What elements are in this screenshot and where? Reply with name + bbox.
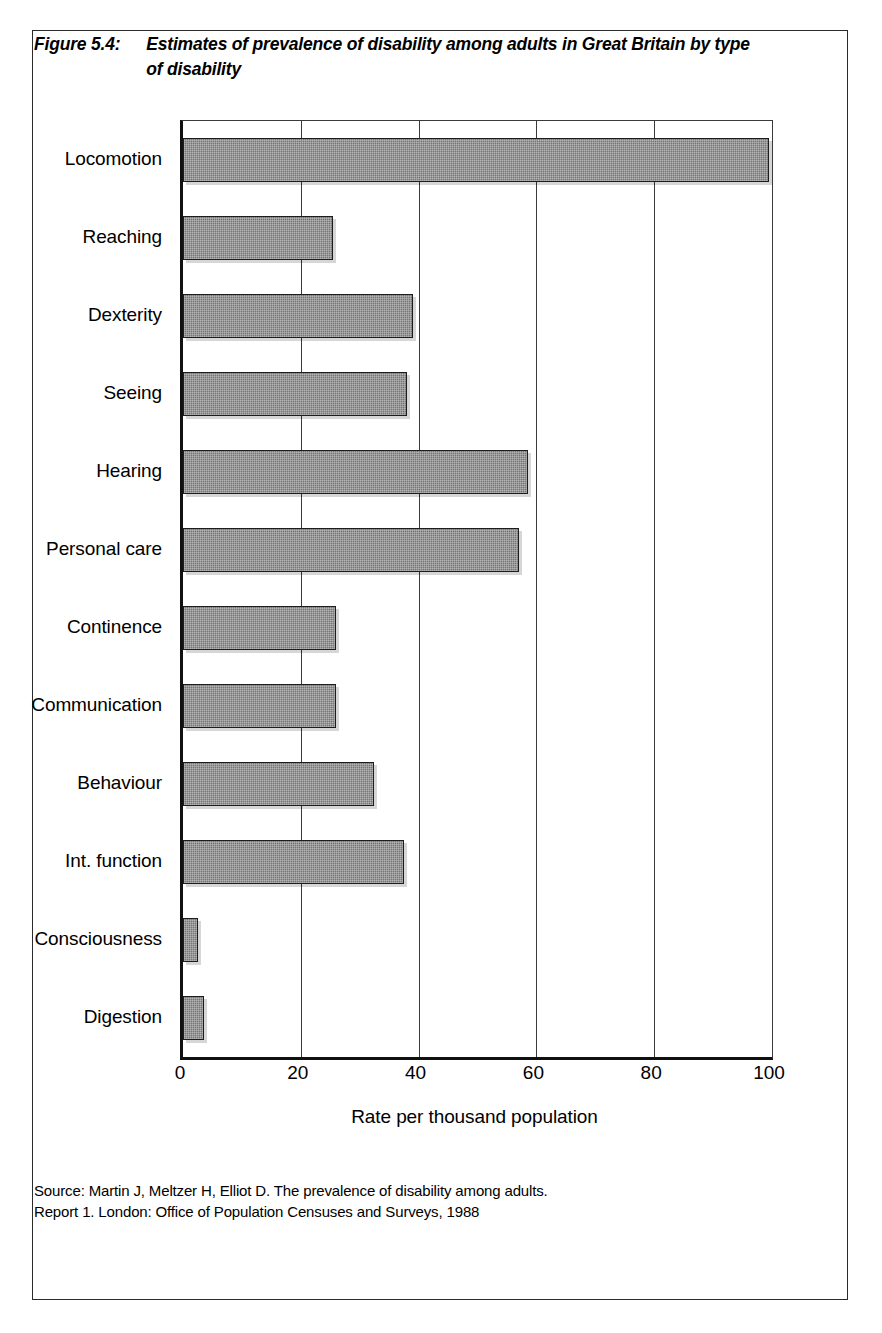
bar[interactable]	[183, 450, 528, 494]
bar[interactable]	[183, 684, 336, 728]
y-axis-category-labels: LocomotionReachingDexteritySeeingHearing…	[0, 120, 172, 1056]
y-axis-label: Continence	[67, 588, 162, 666]
bar[interactable]	[183, 606, 336, 650]
bar-chart: LocomotionReachingDexteritySeeingHearing…	[0, 0, 816, 1270]
y-axis-label: Dexterity	[88, 276, 162, 354]
y-axis-label: Int. function	[65, 822, 162, 900]
y-axis-label: Digestion	[84, 978, 162, 1056]
bar[interactable]	[183, 138, 769, 182]
bar[interactable]	[183, 762, 374, 806]
bar-row	[183, 355, 772, 433]
bars-layer	[183, 121, 772, 1057]
bar[interactable]	[183, 528, 519, 572]
source-line-1: Source: Martin J, Meltzer H, Elliot D. T…	[34, 1180, 774, 1201]
y-axis-label: Behaviour	[77, 744, 162, 822]
source-note: Source: Martin J, Meltzer H, Elliot D. T…	[34, 1180, 774, 1223]
plot-area	[180, 120, 773, 1060]
bar-row	[183, 121, 772, 199]
bar-row	[183, 823, 772, 901]
bar-row	[183, 979, 772, 1057]
y-axis-label: Seeing	[103, 354, 162, 432]
bar[interactable]	[183, 996, 204, 1040]
x-axis-tick: 40	[405, 1062, 426, 1084]
bar[interactable]	[183, 372, 407, 416]
source-line-2: Report 1. London: Office of Population C…	[34, 1201, 774, 1222]
bar[interactable]	[183, 840, 404, 884]
bar-row	[183, 511, 772, 589]
x-axis-tick-labels: 020406080100	[180, 1062, 769, 1092]
bar[interactable]	[183, 294, 413, 338]
bar-row	[183, 277, 772, 355]
bar-row	[183, 199, 772, 277]
bar-row	[183, 589, 772, 667]
x-axis-tick: 80	[641, 1062, 662, 1084]
x-axis-title: Rate per thousand population	[180, 1106, 769, 1128]
y-axis-label: Personal care	[46, 510, 162, 588]
x-axis-tick: 60	[523, 1062, 544, 1084]
bar[interactable]	[183, 918, 198, 962]
y-axis-label: Communication	[31, 666, 162, 744]
x-axis-tick: 100	[753, 1062, 785, 1084]
bar-row	[183, 667, 772, 745]
bar[interactable]	[183, 216, 333, 260]
bar-row	[183, 433, 772, 511]
x-axis-tick: 0	[175, 1062, 186, 1084]
bar-row	[183, 745, 772, 823]
y-axis-label: Consciousness	[34, 900, 162, 978]
y-axis-label: Locomotion	[65, 120, 162, 198]
y-axis-label: Reaching	[83, 198, 162, 276]
x-axis-tick: 20	[287, 1062, 308, 1084]
y-axis-label: Hearing	[96, 432, 162, 510]
bar-row	[183, 901, 772, 979]
